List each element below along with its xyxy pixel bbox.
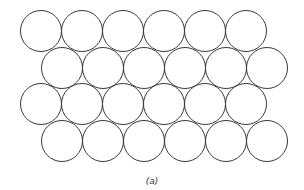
circle bbox=[206, 48, 247, 89]
figure-caption: (a) bbox=[0, 176, 304, 186]
circle bbox=[165, 48, 206, 89]
circle-row-3 bbox=[21, 84, 267, 125]
circle-packing-diagram bbox=[0, 0, 304, 190]
circle bbox=[247, 48, 288, 89]
circle bbox=[21, 84, 62, 125]
circle bbox=[185, 11, 226, 52]
circle bbox=[124, 48, 165, 89]
circle bbox=[62, 11, 103, 52]
circle bbox=[247, 121, 288, 162]
circle bbox=[103, 84, 144, 125]
circle bbox=[42, 121, 83, 162]
circle bbox=[83, 48, 124, 89]
circle-row-1 bbox=[21, 11, 267, 52]
circle bbox=[42, 48, 83, 89]
circle bbox=[206, 121, 247, 162]
circle bbox=[62, 84, 103, 125]
circle-row-2 bbox=[42, 48, 288, 89]
circle bbox=[226, 11, 267, 52]
circle bbox=[103, 11, 144, 52]
circle bbox=[144, 84, 185, 125]
circle bbox=[124, 121, 165, 162]
circle bbox=[21, 11, 62, 52]
circle bbox=[185, 84, 226, 125]
circle bbox=[83, 121, 124, 162]
circle-row-4 bbox=[42, 121, 288, 162]
circle bbox=[226, 84, 267, 125]
circle bbox=[144, 11, 185, 52]
circle bbox=[165, 121, 206, 162]
